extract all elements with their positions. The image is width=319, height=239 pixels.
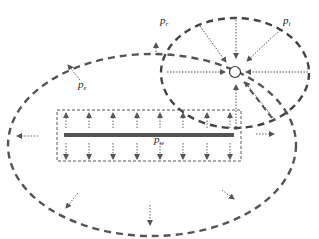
- outer-boundary-ellipse: [8, 54, 296, 236]
- fracture-down-arrows: [66, 143, 230, 159]
- fracture-up-arrows: [66, 113, 230, 128]
- fracture-bar: [64, 133, 234, 137]
- label-p-r: pr: [159, 14, 169, 28]
- pressure-diagram: pr pi pe pw: [0, 0, 319, 239]
- wellbore-icon: [230, 67, 241, 78]
- label-p-i: pi: [282, 14, 291, 28]
- dashed-link-line: [244, 82, 272, 118]
- label-p-e: pe: [77, 78, 87, 92]
